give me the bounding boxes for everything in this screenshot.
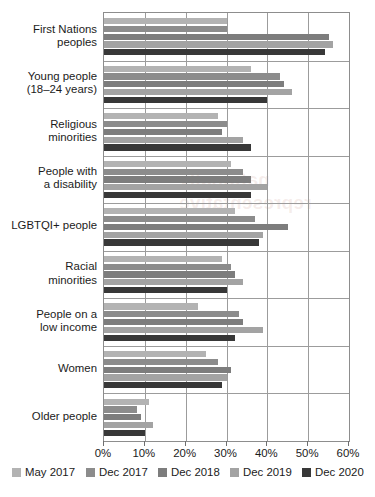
- bar: [104, 137, 243, 143]
- bar: [104, 176, 251, 182]
- category-label-line: Older people: [0, 410, 97, 423]
- category-label: People witha disability: [0, 165, 97, 191]
- category-label-line: People on a: [0, 308, 97, 321]
- category-label: People on alow income: [0, 308, 97, 334]
- bar-group: [104, 156, 349, 204]
- category-label-line: First Nations: [0, 23, 97, 36]
- bar: [104, 208, 235, 214]
- x-tick: [348, 441, 349, 446]
- bar: [104, 144, 251, 150]
- bar: [104, 374, 227, 380]
- category-label: Racialminorities: [0, 260, 97, 286]
- bar-group: [104, 298, 349, 346]
- x-tick-label: 10%: [132, 447, 155, 459]
- bar: [104, 271, 235, 277]
- category-label: Religiousminorities: [0, 118, 97, 144]
- bar: [104, 319, 243, 325]
- bar: [104, 26, 227, 32]
- category-label-line: (18–24 years): [0, 83, 97, 96]
- bar: [104, 73, 280, 79]
- category-axis-labels: First NationspeoplesYoung people(18–24 y…: [0, 12, 97, 440]
- bar: [104, 232, 263, 238]
- x-tick: [266, 441, 267, 446]
- category-label-line: Racial: [0, 260, 97, 273]
- bar: [104, 161, 231, 167]
- category-label-line: minorities: [0, 274, 97, 287]
- legend-item[interactable]: Dec 2020: [302, 466, 364, 478]
- bar: [104, 327, 263, 333]
- legend-label: Dec 2019: [243, 466, 292, 478]
- category-label-line: People with: [0, 165, 97, 178]
- x-tick-label: 20%: [173, 447, 196, 459]
- category-label-line: LGBTQI+ people: [0, 219, 97, 232]
- category-label-line: Women: [0, 362, 97, 375]
- x-tick: [185, 441, 186, 446]
- bar: [104, 129, 222, 135]
- x-tick-label: 50%: [296, 447, 319, 459]
- legend-label: Dec 2020: [315, 466, 364, 478]
- category-label-line: Religious: [0, 118, 97, 131]
- bar: [104, 264, 231, 270]
- bar: [104, 382, 222, 388]
- legend-swatch-icon: [158, 468, 167, 477]
- legend-item[interactable]: May 2017: [12, 466, 75, 478]
- legend-item[interactable]: Dec 2018: [158, 466, 220, 478]
- category-label-line: low income: [0, 321, 97, 334]
- bar: [104, 184, 267, 190]
- bar: [104, 430, 145, 436]
- category-label-line: peoples: [0, 36, 97, 49]
- bar: [104, 113, 218, 119]
- bar: [104, 239, 259, 245]
- bar: [104, 18, 227, 24]
- bar-group: [104, 13, 349, 61]
- discrimination-bar-chart: nationally representative First Nationsp…: [0, 0, 375, 497]
- bar-group: [104, 61, 349, 109]
- bar: [104, 406, 137, 412]
- bar: [104, 399, 149, 405]
- bar: [104, 359, 218, 365]
- x-axis-labels: 0%10%20%30%40%50%60%: [0, 447, 375, 463]
- bar: [104, 414, 141, 420]
- bar-group: [104, 251, 349, 299]
- legend-label: May 2017: [25, 466, 75, 478]
- category-label: Women: [0, 362, 97, 375]
- bar: [104, 89, 292, 95]
- category-label: Older people: [0, 410, 97, 423]
- bar: [104, 335, 235, 341]
- bar: [104, 192, 251, 198]
- bar-group: [104, 203, 349, 251]
- bar-group: [104, 108, 349, 156]
- bar: [104, 34, 329, 40]
- x-axis-ticks: [103, 441, 348, 446]
- legend-swatch-icon: [230, 468, 239, 477]
- category-label: First Nationspeoples: [0, 23, 97, 49]
- x-tick-label: 30%: [214, 447, 237, 459]
- bar: [104, 216, 255, 222]
- bar: [104, 49, 325, 55]
- legend-swatch-icon: [302, 468, 311, 477]
- bar: [104, 81, 284, 87]
- bar: [104, 41, 333, 47]
- x-tick-label: 40%: [255, 447, 278, 459]
- chart-legend: May 2017Dec 2017Dec 2018Dec 2019Dec 2020: [0, 466, 375, 484]
- legend-label: Dec 2018: [171, 466, 220, 478]
- x-tick: [226, 441, 227, 446]
- category-label-line: a disability: [0, 178, 97, 191]
- bar: [104, 351, 206, 357]
- category-label-line: minorities: [0, 131, 97, 144]
- bar: [104, 169, 243, 175]
- bar-group: [104, 346, 349, 394]
- bar-group: [104, 393, 349, 441]
- legend-item[interactable]: Dec 2017: [86, 466, 148, 478]
- category-label: Young people(18–24 years): [0, 70, 97, 96]
- bar: [104, 287, 227, 293]
- plot-area: [103, 12, 350, 442]
- bar: [104, 303, 198, 309]
- bar: [104, 121, 227, 127]
- legend-item[interactable]: Dec 2019: [230, 466, 292, 478]
- bar: [104, 422, 153, 428]
- x-tick-label: 60%: [337, 447, 360, 459]
- bar-groups: [104, 13, 349, 441]
- legend-swatch-icon: [12, 468, 21, 477]
- category-label: LGBTQI+ people: [0, 219, 97, 232]
